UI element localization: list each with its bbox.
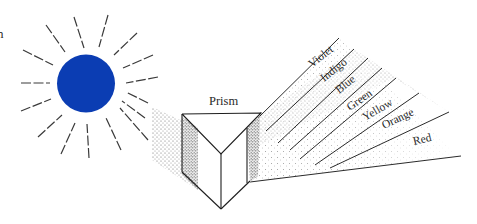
sun xyxy=(21,15,158,158)
prism-label: Prism xyxy=(209,94,238,108)
sun-disc xyxy=(57,55,115,113)
prism: Prism xyxy=(182,94,261,209)
dispersed-spectrum xyxy=(250,38,461,182)
light-dispersion-diagram: n xyxy=(0,0,477,224)
caption-fragment: n xyxy=(0,26,4,41)
